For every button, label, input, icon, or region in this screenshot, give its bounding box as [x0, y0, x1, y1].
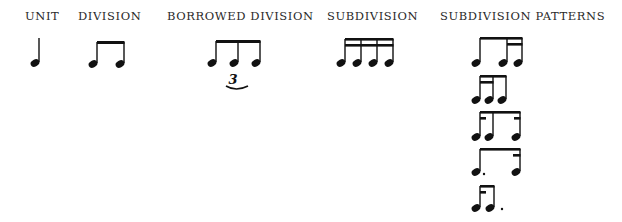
subdivision-sixteenth-notes	[335, 38, 394, 68]
notation-canvas: 3	[0, 0, 622, 222]
pattern-5	[470, 185, 503, 213]
pattern-2	[470, 75, 507, 105]
borrowed-division-triplet: 3	[206, 40, 261, 89]
pattern-4	[470, 148, 521, 177]
unit-quarter-note	[29, 38, 40, 68]
division-eighth-notes	[87, 41, 125, 69]
pattern-1	[470, 37, 523, 68]
pattern-3	[470, 111, 521, 142]
tuplet-number: 3	[228, 72, 237, 87]
